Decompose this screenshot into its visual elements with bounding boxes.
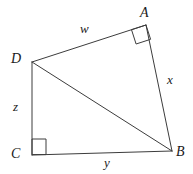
segment-AB [146,25,172,151]
side-label-x: x [167,73,173,86]
geometry-canvas [0,0,193,174]
side-label-w: w [80,22,89,35]
side-label-y: y [104,156,110,169]
geometry-figure: A B C D w x y z [0,0,193,174]
vertex-label-b: B [176,145,185,159]
vertex-label-a: A [140,6,149,20]
segment-DA [32,25,146,62]
vertex-label-c: C [11,147,20,161]
segment-CB [32,151,172,155]
vertex-label-d: D [11,52,21,66]
side-label-z: z [13,100,18,113]
right-angle-marker-C [32,139,46,155]
segment-DB-diagonal [32,62,172,151]
